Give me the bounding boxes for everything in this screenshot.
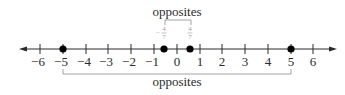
tick-label: 3: [242, 54, 249, 69]
tick-label: −2: [122, 54, 136, 69]
tick-labels: −6 −5 −4 −3 −2 −1 0 1 2 3 4 5 6: [31, 54, 317, 69]
right-arrow-icon: [329, 47, 337, 52]
fraction-label-pos: 4 7: [188, 25, 193, 41]
fraction-numerator: 4: [162, 25, 166, 33]
left-arrow-icon: [19, 47, 27, 52]
top-bracket: [165, 20, 191, 25]
tick-label: 5: [288, 54, 295, 69]
fraction-label-neg: − 4 7: [156, 25, 166, 41]
fraction-denominator: 7: [162, 33, 166, 41]
tick-label: −5: [54, 54, 68, 69]
point-neg-4-7: [160, 45, 167, 52]
tick-label: 6: [310, 54, 317, 69]
fraction-denominator: 7: [188, 33, 192, 41]
tick-label: 0: [174, 54, 181, 69]
tick-label: 1: [197, 54, 204, 69]
top-bracket-label: opposites: [152, 4, 201, 19]
fraction-numerator: 4: [188, 25, 192, 33]
tick-label: −3: [99, 54, 113, 69]
fraction-sign: −: [156, 29, 160, 37]
tick-label: 4: [265, 54, 272, 69]
tick-label: 2: [219, 54, 226, 69]
tick-label: −1: [145, 54, 159, 69]
tick-label: −4: [77, 54, 91, 69]
point-4-7: [186, 45, 193, 52]
bottom-bracket-label: opposites: [152, 74, 201, 89]
number-line-diagram: −6 −5 −4 −3 −2 −1 0 1 2 3 4 5 6 − 4 7 4 …: [0, 0, 345, 95]
point-5: [287, 45, 294, 52]
tick-label: −6: [31, 54, 45, 69]
point-neg-5: [59, 45, 66, 52]
